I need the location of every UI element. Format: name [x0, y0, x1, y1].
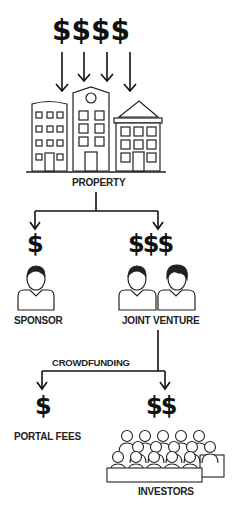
property-buildings-icon — [26, 87, 166, 172]
portal-fees-label: PORTAL FEES — [14, 432, 81, 442]
crowdfunding-edge-label: CROWDFUNDING — [52, 358, 130, 368]
sponsor-money: $ — [27, 232, 43, 256]
portal-fees-money: $ — [35, 394, 51, 418]
investors-label: INVESTORS — [138, 487, 194, 497]
arrow-property-to-partners — [30, 192, 163, 229]
joint-venture-label: JOINT VENTURE — [122, 316, 199, 326]
sponsor-label: SPONSOR — [14, 316, 63, 326]
joint-venture-money: $$$ — [128, 232, 172, 256]
arrow-money-to-property — [56, 52, 136, 91]
investors-money: $$ — [146, 394, 175, 418]
property-label: PROPERTY — [72, 178, 125, 188]
joint-venture-people-icon — [119, 265, 195, 310]
investors-crowd-icon — [107, 431, 224, 483]
sponsor-person-icon — [18, 266, 54, 310]
